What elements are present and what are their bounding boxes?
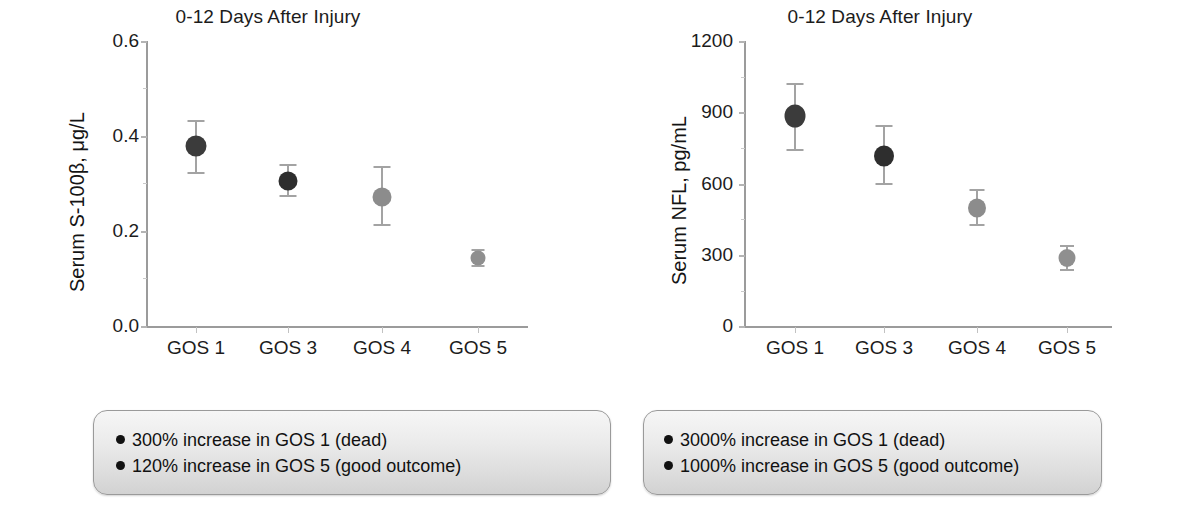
x-tick-gos3 (884, 327, 885, 333)
y-tick-300 (739, 255, 745, 257)
errorbar-cap-top-gos1 (787, 83, 804, 85)
x-tick-gos1 (795, 327, 796, 333)
marker-gos4 (373, 188, 392, 207)
x-tick-label-gos4: GOS 4 (353, 337, 411, 359)
y-tick-label-1: 0.4 (95, 125, 139, 147)
datapoint-gos5 (468, 249, 488, 267)
x-tick-label-gos5: GOS 5 (1038, 337, 1096, 359)
callout-box-s100b: 300% increase in GOS 1 (dead) 120% incre… (93, 410, 611, 495)
y-tick-1200 (739, 41, 745, 43)
x-tick-gos4 (977, 327, 978, 333)
y-tick-600 (739, 184, 745, 186)
bullet-icon (116, 435, 125, 444)
y-tick-0-0 (141, 326, 147, 328)
y-tick-minor-1050 (741, 77, 745, 78)
y-tick-label-0: 1200 (675, 30, 733, 52)
plot-area-right: 1200 900 600 300 0 GOS 1 GOS 3 GOS 4 GOS… (600, 0, 1194, 375)
errorbar-cap-bottom-gos1 (188, 172, 205, 174)
y-tick-label-0: 0.6 (95, 30, 139, 52)
errorbar-cap-top-gos3 (876, 125, 893, 127)
errorbar-cap-bottom-gos4 (374, 224, 391, 226)
callout-item: 1000% increase in GOS 5 (good outcome) (664, 454, 1101, 480)
y-tick-0-4 (141, 136, 147, 138)
errorbar-cap-bottom-gos5 (1060, 269, 1074, 271)
x-tick-label-gos1: GOS 1 (167, 337, 225, 359)
y-tick-900 (739, 112, 745, 114)
y-tick-0-2 (141, 231, 147, 233)
y-tick-minor-750 (741, 148, 745, 149)
chart-panel-s100b: 0-12 Days After Injury Serum S-100β, μg/… (0, 0, 600, 375)
plot-area-left: 0.6 0.4 0.2 0.0 GOS 1 GOS 3 GOS 4 GOS 5 (0, 0, 600, 375)
marker-gos5 (471, 251, 486, 266)
callout-item: 3000% increase in GOS 1 (dead) (664, 428, 1101, 454)
bullet-icon (116, 461, 125, 470)
marker-gos1 (186, 135, 207, 156)
datapoint-gos5 (1057, 245, 1077, 271)
bullet-icon (664, 461, 673, 470)
y-tick-label-3: 300 (675, 244, 733, 266)
y-tick-minor-150 (741, 291, 745, 292)
bullet-icon (664, 435, 673, 444)
x-tick-gos3 (288, 327, 289, 333)
x-tick-gos1 (196, 327, 197, 333)
datapoint-gos1 (186, 120, 206, 174)
y-tick-minor-0-5 (143, 88, 147, 89)
callout-box-nfl: 3000% increase in GOS 1 (dead) 1000% inc… (643, 410, 1102, 495)
errorbar-cap-top-gos4 (970, 189, 985, 191)
errorbar-cap-top-gos1 (188, 120, 205, 122)
x-tick-label-gos1: GOS 1 (766, 337, 824, 359)
marker-gos4 (968, 198, 986, 217)
y-tick-label-3: 0.0 (95, 315, 139, 337)
datapoint-gos3 (278, 164, 298, 197)
callout-item: 300% increase in GOS 1 (dead) (116, 428, 610, 454)
y-tick-label-1: 900 (675, 101, 733, 123)
datapoint-gos4 (372, 166, 392, 226)
callout-item-text: 1000% increase in GOS 5 (good outcome) (680, 454, 1019, 480)
y-tick-0-6 (141, 41, 147, 43)
errorbar-cap-top-gos3 (280, 164, 297, 166)
callout-list-left: 300% increase in GOS 1 (dead) 120% incre… (94, 411, 610, 479)
y-axis-line-left (146, 41, 148, 328)
x-tick-label-gos3: GOS 3 (259, 337, 317, 359)
datapoint-gos4 (967, 189, 987, 226)
callout-item: 120% increase in GOS 5 (good outcome) (116, 454, 610, 480)
y-tick-label-2: 600 (675, 173, 733, 195)
x-tick-label-gos5: GOS 5 (449, 337, 507, 359)
callout-item-text: 300% increase in GOS 1 (dead) (132, 428, 387, 454)
y-tick-minor-0-1 (143, 278, 147, 279)
errorbar-cap-top-gos5 (1060, 245, 1074, 247)
callout-item-text: 120% increase in GOS 5 (good outcome) (132, 454, 461, 480)
x-axis-line-left (146, 326, 528, 328)
y-tick-0 (739, 326, 745, 328)
datapoint-gos3 (874, 125, 894, 185)
figure-root: 0-12 Days After Injury Serum S-100β, μg/… (0, 0, 1194, 505)
y-tick-label-4: 0 (675, 315, 733, 337)
datapoint-gos1 (785, 83, 805, 151)
errorbar-cap-bottom-gos1 (787, 149, 804, 151)
callout-list-right: 3000% increase in GOS 1 (dead) 1000% inc… (644, 411, 1101, 479)
callout-item-text: 3000% increase in GOS 1 (dead) (680, 428, 945, 454)
x-tick-label-gos3: GOS 3 (855, 337, 913, 359)
x-tick-gos5 (1067, 327, 1068, 333)
x-tick-gos4 (382, 327, 383, 333)
errorbar-cap-top-gos4 (374, 166, 391, 168)
marker-gos3 (279, 171, 298, 190)
marker-gos5 (1059, 249, 1076, 267)
x-axis-line-right (744, 326, 1112, 328)
errorbar-cap-bottom-gos4 (970, 224, 985, 226)
marker-gos3 (874, 145, 894, 166)
errorbar-cap-bottom-gos3 (280, 195, 297, 197)
errorbar-cap-bottom-gos3 (876, 183, 893, 185)
x-tick-label-gos4: GOS 4 (948, 337, 1006, 359)
marker-gos1 (785, 105, 806, 128)
y-tick-minor-450 (741, 219, 745, 220)
y-tick-label-2: 0.2 (95, 220, 139, 242)
x-tick-gos5 (478, 327, 479, 333)
chart-panel-nfl: 0-12 Days After Injury Serum NFL, pg/mL … (600, 0, 1194, 375)
y-tick-minor-0-3 (143, 183, 147, 184)
